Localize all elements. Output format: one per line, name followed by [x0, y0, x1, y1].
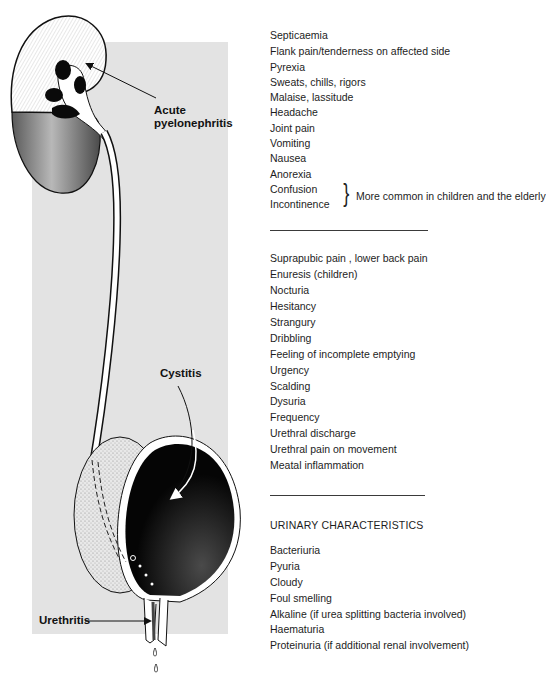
list-item: Cloudy [270, 576, 303, 588]
list-item: Suprapubic pain , lower back pain [270, 252, 428, 264]
list-item: Urethral pain on movement [270, 443, 397, 455]
list-item: Urethral discharge [270, 427, 356, 439]
list-item: Hesitancy [270, 300, 316, 312]
list-item: Haematuria [270, 623, 324, 635]
list-item: Scalding [270, 380, 310, 392]
list-item: Frequency [270, 411, 320, 423]
brace-icon: } [343, 180, 349, 206]
list-item: Foul smelling [270, 592, 332, 604]
list-item: Vomiting [270, 137, 310, 149]
urinary-tract-drawing [0, 0, 250, 686]
list-item: Septicaemia [270, 29, 328, 41]
list-item: Strangury [270, 316, 316, 328]
list-item: Pyuria [270, 560, 300, 572]
label-line-pyelonephritis: pyelonephritis [154, 117, 233, 130]
section-divider [270, 495, 425, 496]
kidney [11, 16, 110, 193]
list-item: Urgency [270, 364, 309, 376]
list-item: Incontinence [270, 198, 330, 210]
list-item: Flank pain/tenderness on affected side [270, 45, 450, 57]
symptom-lists: Septicaemia Flank pain/tenderness on aff… [270, 0, 537, 686]
list-item: Headache [270, 106, 318, 118]
list-item: Dribbling [270, 332, 311, 344]
list-item: Dysuria [270, 395, 306, 407]
list-item: Pyrexia [270, 61, 305, 73]
list-item: Nausea [270, 152, 306, 164]
list-item: Confusion [270, 183, 317, 195]
section-divider [270, 230, 428, 231]
list-item: Alkaline (if urea splitting bacteria inv… [270, 608, 466, 620]
list-item: Enuresis (children) [270, 268, 358, 280]
label-acute-pyelonephritis: Acute pyelonephritis [154, 104, 233, 130]
list-item: Joint pain [270, 122, 315, 134]
list-item: Proteinuria (if additional renal involve… [270, 639, 469, 651]
label-cystitis: Cystitis [160, 367, 202, 380]
ureter [92, 132, 117, 470]
list-item: Bacteriuria [270, 544, 320, 556]
list-item: Malaise, lassitude [270, 91, 353, 103]
bladder [74, 436, 240, 602]
list-item: Feeling of incomplete emptying [270, 348, 415, 360]
section-heading: URINARY CHARACTERISTICS [270, 519, 424, 531]
bracket-note: More common in children and the elderly [356, 190, 546, 202]
list-item: Anorexia [270, 168, 311, 180]
list-item: Meatal inflammation [270, 459, 364, 471]
label-urethritis: Urethritis [39, 614, 90, 627]
label-line-acute: Acute [154, 104, 233, 117]
urethra [144, 598, 168, 672]
urinary-tract-illustration: Acute pyelonephritis Cystitis Urethritis [0, 0, 250, 686]
list-item: Sweats, chills, rigors [270, 76, 366, 88]
list-item: Nocturia [270, 284, 309, 296]
